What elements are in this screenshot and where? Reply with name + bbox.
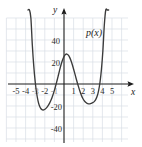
x-tick-label-2: 2 xyxy=(81,86,85,96)
polynomial-graph-figure: y x -5 -4 -3 -2 -1 1 2 3 4 5 40 20 -20 -… xyxy=(0,0,142,147)
curve-label: p(x) xyxy=(85,27,103,39)
x-tick-label-neg4: -4 xyxy=(22,86,30,96)
y-axis xyxy=(61,8,66,143)
x-tick-label-neg2: -2 xyxy=(41,86,48,96)
y-tick-label-40: 40 xyxy=(52,36,61,46)
x-tick-label-3: 3 xyxy=(91,86,95,96)
y-tick-label-20: 20 xyxy=(52,58,61,68)
x-axis-label: x xyxy=(130,87,136,97)
plot-canvas: y x -5 -4 -3 -2 -1 1 2 3 4 5 40 20 -20 -… xyxy=(0,0,142,147)
y-tick-label-neg20: -20 xyxy=(51,102,62,112)
grid-lines xyxy=(6,18,128,142)
x-tick-label-4: 4 xyxy=(100,86,105,96)
x-tick-label-5: 5 xyxy=(110,86,114,96)
x-tick-label-1: 1 xyxy=(71,86,75,96)
y-tick-label-neg40: -40 xyxy=(51,124,62,134)
y-axis-label: y xyxy=(52,5,58,15)
x-tick-label-neg5: -5 xyxy=(12,86,19,96)
